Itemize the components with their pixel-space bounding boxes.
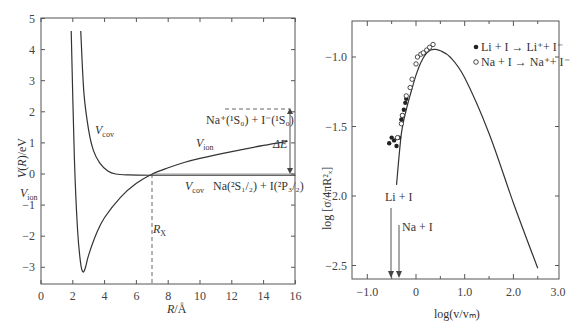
- left-xtick-label: 0: [38, 289, 44, 303]
- legend-filled-circle-icon: [474, 45, 479, 50]
- right-plot: −1.001.02.03.0−1.0−1.5−2.0−2.5 Li + I Na…: [320, 21, 570, 321]
- label-li-i: Li + I: [385, 190, 412, 204]
- li-data-point: [394, 144, 398, 148]
- right-xlabel: log(v/vₘ): [434, 307, 480, 321]
- vcov-curve: [81, 31, 296, 175]
- left-ytick-label: 1: [29, 136, 35, 150]
- left-plot: 0246810121416543210−1−2−3 Vion Vcov Vion…: [15, 12, 304, 317]
- left-ytick-label: 2: [29, 105, 35, 119]
- na-data-point: [431, 42, 435, 46]
- li-data-point: [399, 117, 403, 121]
- na-data-point: [395, 135, 399, 139]
- legend-li: Li + I → Li⁺+ I⁻: [481, 40, 563, 54]
- na-data-point: [404, 94, 408, 98]
- theory-curve: [397, 49, 538, 268]
- na-data-point: [410, 77, 414, 81]
- left-xtick-label: 6: [133, 289, 139, 303]
- right-ytick-label: −1.0: [325, 50, 347, 64]
- na-data-point: [400, 113, 404, 117]
- arrow-down-icon: [396, 271, 402, 278]
- right-xtick-label: 3.0: [551, 285, 566, 299]
- na-data-point: [408, 85, 412, 89]
- data-points: [387, 42, 435, 148]
- left-ytick-label: −2: [22, 229, 35, 243]
- label-vion-left: Vion: [20, 186, 38, 202]
- label-vion-right: Vion: [196, 136, 214, 152]
- right-ylabel: log [σ/4πR²ₓ]: [320, 167, 334, 230]
- legend-na: Na + I → Na⁺+ I⁻: [481, 55, 570, 69]
- label-delta-e: ΔE: [272, 137, 288, 151]
- left-xtick-label: 10: [194, 289, 206, 303]
- right-xtick-label: 0: [413, 285, 419, 299]
- left-ylabel: V(R)/eV: [15, 138, 29, 178]
- label-ion-state: Na⁺(¹S₀) + I⁻(¹S₀): [206, 113, 294, 127]
- label-vcov-right: Vcov: [185, 179, 204, 195]
- right-xtick-label: 1.0: [457, 285, 472, 299]
- left-xtick-label: 4: [102, 289, 108, 303]
- li-data-point: [402, 108, 406, 112]
- label-cov-state: Na(²S₁/₂) + I(²P₃/₂): [213, 179, 304, 193]
- legend-open-circle-icon: [474, 60, 479, 65]
- right-xtick-label: −1.0: [356, 285, 378, 299]
- label-rx: RX: [152, 222, 166, 238]
- vion-curve: [71, 31, 287, 272]
- right-ytick-label: −1.5: [325, 120, 347, 134]
- left-axis-ticks: 0246810121416543210−1−2−3: [22, 12, 301, 304]
- li-data-point: [403, 101, 407, 105]
- figure-canvas: 0246810121416543210−1−2−3 Vion Vcov Vion…: [0, 0, 582, 329]
- left-xtick-label: 14: [258, 289, 270, 303]
- left-ytick-label: 4: [29, 43, 35, 57]
- label-na-i: Na + I: [402, 220, 433, 234]
- left-xlabel: R/Å: [166, 302, 187, 316]
- left-xtick-label: 12: [226, 289, 238, 303]
- left-xtick-label: 2: [70, 289, 76, 303]
- left-ytick-label: −3: [22, 260, 35, 274]
- na-data-point: [399, 122, 403, 126]
- left-ytick-label: 3: [29, 74, 35, 88]
- left-xtick-label: 16: [289, 289, 301, 303]
- left-ytick-label: 5: [29, 12, 35, 26]
- arrow-down-icon: [388, 271, 394, 278]
- right-ytick-label: −2.5: [325, 259, 347, 273]
- left-xtick-label: 8: [165, 289, 171, 303]
- label-vcov-left: Vcov: [95, 123, 114, 139]
- li-data-point: [387, 141, 391, 145]
- na-data-point: [414, 62, 418, 66]
- right-xtick-label: 2.0: [506, 285, 521, 299]
- arrow-down-icon: [287, 168, 293, 174]
- left-ytick-label: 0: [29, 167, 35, 181]
